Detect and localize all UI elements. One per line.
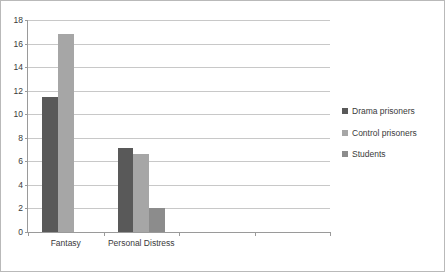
y-axis-tick-label: 10 bbox=[14, 110, 23, 119]
x-axis-tick-mark bbox=[255, 232, 256, 236]
y-axis-tick-label: 14 bbox=[14, 63, 23, 72]
x-axis-tick-mark bbox=[104, 232, 105, 236]
y-axis-tick-label: 6 bbox=[18, 157, 23, 166]
plot-area: 024681012141618 FantasyPersonal Distress bbox=[27, 20, 330, 233]
y-axis-tick-mark bbox=[25, 138, 28, 139]
legend-item[interactable]: Control prisoners bbox=[342, 129, 442, 138]
y-axis-tick-mark bbox=[25, 161, 28, 162]
x-axis-category-label: Fantasy bbox=[51, 239, 81, 248]
chart-legend: Drama prisonersControl prisonersStudents bbox=[342, 107, 442, 172]
x-axis-tick-mark bbox=[330, 232, 331, 236]
y-axis-tick-mark bbox=[25, 67, 28, 68]
y-axis-tick-mark bbox=[25, 185, 28, 186]
x-axis-tick-mark bbox=[179, 232, 180, 236]
legend-item[interactable]: Students bbox=[342, 150, 442, 159]
y-axis-tick-mark bbox=[25, 208, 28, 209]
bar bbox=[149, 208, 165, 232]
y-axis-tick-label: 12 bbox=[14, 86, 23, 95]
chart-frame: 024681012141618 FantasyPersonal Distress… bbox=[0, 0, 445, 272]
x-axis-category-label: Personal Distress bbox=[108, 239, 175, 248]
y-axis-tick-label: 8 bbox=[18, 134, 23, 143]
y-axis-tick-label: 18 bbox=[14, 16, 23, 25]
y-axis-tick-label: 2 bbox=[18, 204, 23, 213]
gridline bbox=[28, 20, 330, 21]
legend-swatch-icon bbox=[342, 130, 348, 136]
y-axis-tick-label: 0 bbox=[18, 228, 23, 237]
bar bbox=[118, 148, 134, 232]
legend-item[interactable]: Drama prisoners bbox=[342, 107, 442, 116]
x-axis-tick-mark bbox=[28, 232, 29, 236]
y-axis-tick-mark bbox=[25, 44, 28, 45]
bar bbox=[58, 34, 74, 232]
y-axis-tick-label: 16 bbox=[14, 39, 23, 48]
y-axis-tick-mark bbox=[25, 20, 28, 21]
legend-item-label: Control prisoners bbox=[352, 129, 417, 138]
legend-swatch-icon bbox=[342, 108, 348, 114]
bar bbox=[42, 97, 58, 232]
y-axis-tick-mark bbox=[25, 91, 28, 92]
legend-item-label: Students bbox=[352, 150, 386, 159]
legend-swatch-icon bbox=[342, 151, 348, 157]
legend-item-label: Drama prisoners bbox=[352, 107, 415, 116]
bar bbox=[133, 154, 149, 232]
y-axis-tick-label: 4 bbox=[18, 181, 23, 190]
y-axis-tick-mark bbox=[25, 114, 28, 115]
